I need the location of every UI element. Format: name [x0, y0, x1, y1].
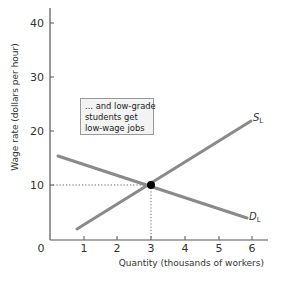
annotation-line-1: ... and low-grade: [85, 101, 149, 112]
y-tick-10: 10: [30, 179, 44, 192]
supply-label: SL: [253, 112, 263, 125]
origin-label: 0: [38, 242, 45, 255]
y-tick-20: 20: [30, 125, 44, 138]
x-tick-6: 6: [249, 242, 256, 255]
x-tick-1: 1: [81, 242, 88, 255]
demand-label: DL: [249, 211, 261, 224]
annotation-box: ... and low-grade students get low-wage …: [80, 98, 154, 135]
x-axis-title: Quantity (thousands of workers): [119, 258, 264, 268]
x-tick-2: 2: [114, 242, 121, 255]
x-tick-3: 3: [148, 242, 155, 255]
annotation-line-3: low-wage jobs: [85, 123, 149, 134]
annotation-line-2: students get: [85, 112, 149, 123]
x-tick-5: 5: [216, 242, 223, 255]
y-axis-title: Wage rate (dollars per hour): [10, 43, 20, 171]
y-tick-40: 40: [30, 17, 44, 30]
equilibrium-point: [147, 181, 155, 189]
y-tick-30: 30: [30, 71, 44, 84]
x-tick-4: 4: [182, 242, 189, 255]
supply-curve: [77, 121, 251, 229]
chart-canvas: 10 20 30 40 0 1 2 3 4 5 6 Quantity (thou…: [0, 0, 282, 282]
